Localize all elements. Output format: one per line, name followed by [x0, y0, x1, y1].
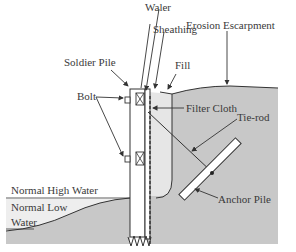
label-normal-high-water: Normal High Water: [11, 184, 98, 196]
fill-leader: [168, 74, 176, 89]
sheathing-leader: [155, 32, 164, 88]
label-fill: Fill: [175, 59, 190, 71]
label-tie-rod: Tie-rod: [237, 111, 270, 123]
label-sheathing: Sheathing: [153, 23, 197, 35]
anchor-pin: [210, 171, 214, 175]
soldier-pile-leader: [111, 70, 128, 86]
bolt-top: [125, 97, 130, 103]
label-bolt: Bolt: [77, 90, 96, 102]
sheathing: [145, 89, 150, 239]
label-filter-cloth: Filter Cloth: [186, 102, 237, 114]
label-anchor-pile: Anchor Pile: [218, 193, 271, 205]
label-erosion-escarpment: Erosion Escarpment: [186, 19, 275, 31]
label-water: Water: [11, 216, 37, 228]
bolt-leader-top: [96, 97, 123, 98]
bolt-bottom: [125, 156, 130, 162]
label-normal-low-water: Normal Low: [11, 201, 68, 213]
bolt-leader-bottom: [96, 97, 123, 156]
waler-leader-2: [141, 24, 150, 88]
label-soldier-pile: Soldier Pile: [64, 56, 116, 68]
label-waler: Waler: [145, 1, 171, 13]
retaining-wall-diagram: [0, 0, 296, 252]
